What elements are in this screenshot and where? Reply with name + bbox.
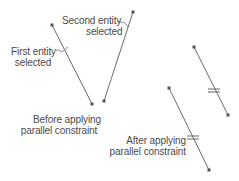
endpoint-marker bbox=[51, 24, 54, 27]
endpoint-marker bbox=[168, 87, 171, 90]
second-entity-label-line1: Second entity bbox=[62, 15, 122, 26]
second-entity-label-line2: selected bbox=[62, 26, 122, 37]
endpoint-marker bbox=[91, 103, 94, 106]
first-entity-label-line1: First entity bbox=[4, 46, 56, 57]
before-caption-line2: parallel constraint bbox=[14, 125, 104, 136]
after-caption-line1: After applying bbox=[100, 135, 186, 146]
parallel-symbol-icon bbox=[208, 89, 220, 92]
before-caption-line1: Before applying bbox=[14, 114, 104, 125]
after-caption-line2: parallel constraint bbox=[100, 146, 186, 157]
second-entity-label: Second entity selected bbox=[62, 15, 122, 37]
endpoint-marker bbox=[132, 11, 135, 14]
after-caption: After applying parallel constraint bbox=[100, 135, 186, 157]
endpoint-marker bbox=[103, 100, 106, 103]
upper-parallel-line bbox=[193, 46, 230, 117]
before-caption: Before applying parallel constraint bbox=[14, 114, 104, 136]
endpoint-marker bbox=[208, 169, 211, 172]
first-entity-label: First entity selected bbox=[4, 46, 56, 68]
endpoint-marker bbox=[193, 46, 196, 49]
first-entity-label-line2: selected bbox=[4, 57, 56, 68]
endpoint-marker bbox=[227, 114, 230, 117]
lower-parallel-line bbox=[168, 87, 211, 172]
first-entity-leader bbox=[56, 47, 68, 52]
